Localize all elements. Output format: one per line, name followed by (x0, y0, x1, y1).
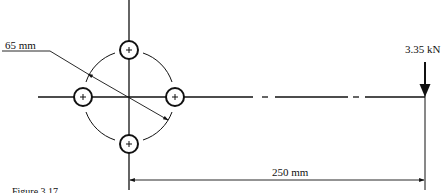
pcd-label: 65 mm (5, 40, 36, 51)
pcd-dimension-leader (2, 51, 168, 120)
eccentricity-label: 250 mm (272, 167, 308, 178)
bolt-hole-left (74, 88, 92, 106)
load-arrow-icon (420, 62, 431, 97)
bolt-group-drawing (0, 0, 445, 193)
bolt-hole-right (166, 88, 184, 106)
bolt-hole-bottom (120, 135, 138, 153)
figure-caption: Figure 3.17 (12, 187, 58, 193)
bolt-hole-top (120, 41, 138, 59)
diagram-canvas: 65 mm 3.35 kN 250 mm Figure 3.17 (0, 0, 445, 193)
load-label: 3.35 kN (405, 44, 440, 55)
